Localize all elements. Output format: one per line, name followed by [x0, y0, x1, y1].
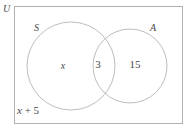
outside-expression-rest: + 5 [22, 104, 39, 116]
region-value-intersection: 3 [87, 59, 109, 70]
region-value-outside: x + 5 [17, 105, 39, 116]
region-value-a-only: 15 [124, 59, 146, 70]
region-value-s-only: x [52, 61, 74, 71]
set-a-label: A [150, 23, 156, 33]
set-s-label: S [34, 23, 39, 33]
universal-set-label: U [3, 4, 10, 14]
venn-diagram-figure: U S A x 3 15 x + 5 [0, 0, 188, 135]
